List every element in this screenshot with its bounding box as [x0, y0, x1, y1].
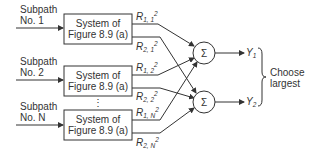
subpath-2-label-line2: No. 2 [20, 67, 44, 78]
system-box-n-line1: System of [76, 114, 121, 125]
label-r11: R1, 12 [136, 10, 158, 23]
output-y1: Y1 [246, 47, 257, 59]
subpath-2: Subpath No. 2 System of Figure 8.9 (a) [16, 56, 132, 96]
system-box-1-line1: System of [76, 18, 121, 29]
brace [258, 48, 266, 106]
summer-2: Σ Y2 [193, 91, 257, 113]
label-r1n: R1, N2 [136, 106, 159, 119]
subpath-1: Subpath No. 1 System of Figure 8.9 (a) [16, 4, 132, 44]
output-y2: Y2 [246, 96, 257, 108]
decision-line2: largest [270, 78, 300, 89]
label-r2n: R2, N2 [136, 136, 159, 149]
label-r22: R2, 22 [136, 90, 158, 103]
subpath-1-label-line2: No. 1 [20, 15, 44, 26]
system-box-2-line1: System of [76, 70, 121, 81]
system-box-n-line2: Figure 8.9 (a) [68, 125, 128, 136]
sigma-icon: Σ [201, 48, 207, 59]
decision-line1: Choose [270, 67, 305, 78]
system-box-1-line2: Figure 8.9 (a) [68, 29, 128, 40]
ellipsis: ⋮ [93, 97, 103, 108]
summer-1: Σ Y1 [193, 42, 257, 64]
sigma-icon: Σ [201, 97, 207, 108]
label-r12: R1, 22 [136, 61, 158, 74]
system-box-2-line2: Figure 8.9 (a) [68, 81, 128, 92]
subpath-2-label-line1: Subpath [20, 56, 57, 67]
subpath-n-label-line2: No. N [20, 112, 46, 123]
subpath-n-label-line1: Subpath [20, 101, 57, 112]
subpath-n: Subpath No. N System of Figure 8.9 (a) [16, 101, 132, 140]
label-r21: R2, 12 [136, 40, 158, 53]
diagram-canvas: Subpath No. 1 System of Figure 8.9 (a) S… [0, 0, 313, 157]
subpath-1-label-line1: Subpath [20, 4, 57, 15]
signal-labels: R1, 12 R2, 12 R1, 22 R2, 22 R1, N2 R2, N… [136, 10, 159, 149]
